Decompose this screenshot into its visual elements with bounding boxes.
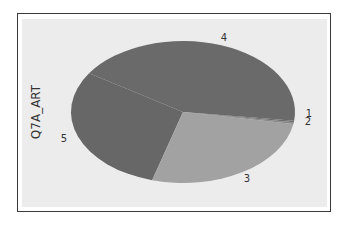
slice-label-4: 4 bbox=[221, 33, 227, 43]
slice-label-3: 3 bbox=[244, 174, 250, 184]
slice-label-5: 5 bbox=[61, 134, 67, 144]
slice-label-2: 2 bbox=[305, 117, 311, 127]
pie-chart bbox=[0, 0, 351, 227]
y-axis-label: Q7A_ART bbox=[29, 85, 43, 139]
